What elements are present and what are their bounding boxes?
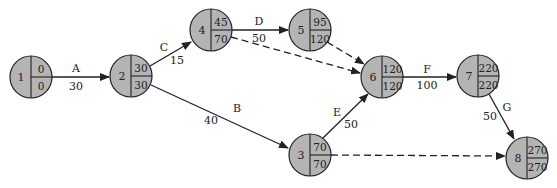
edge-d-duration: 50 [252, 32, 266, 45]
edge-c-duration: 15 [170, 54, 184, 67]
edge-c-name: C [160, 41, 168, 54]
node-id: 6 [370, 71, 377, 84]
node-3: 3 70 70 [289, 134, 331, 176]
edge-e [323, 94, 368, 138]
node-8: 8 270 270 [506, 137, 548, 179]
node-early-time: 270 [527, 144, 547, 156]
edge-b [151, 85, 288, 148]
node-id: 2 [119, 70, 126, 83]
node-5: 5 95 120 [289, 9, 331, 51]
node-late-time: 70 [214, 33, 227, 45]
node-id: 7 [466, 70, 473, 83]
edge-g-name: G [503, 101, 512, 114]
node-4: 4 45 70 [190, 9, 232, 51]
node-early-time: 45 [214, 16, 227, 28]
node-1: 1 0 0 [10, 56, 52, 98]
node-late-time: 0 [38, 80, 45, 92]
edge-b-name: B [233, 102, 241, 115]
edge-a-duration: 30 [69, 80, 83, 93]
network-diagram: A 30 B 40 C 15 D 50 E 50 F 100 G 50 1 0 … [0, 0, 557, 188]
edge-a-name: A [71, 62, 81, 75]
node-late-time: 30 [134, 79, 147, 91]
node-early-time: 70 [313, 141, 326, 153]
edge-b-duration: 40 [204, 114, 218, 127]
node-late-time: 120 [382, 80, 402, 92]
node-2: 2 30 30 [110, 55, 152, 97]
dummy-edge-3-8 [331, 155, 505, 156]
edge-e-duration: 50 [344, 118, 358, 131]
edge-f-name: F [423, 63, 431, 76]
node-early-time: 220 [478, 62, 498, 74]
node-early-time: 120 [382, 63, 402, 75]
node-late-time: 220 [478, 79, 498, 91]
node-id: 1 [18, 71, 25, 84]
node-early-time: 0 [38, 63, 45, 75]
node-id: 8 [515, 152, 522, 165]
node-early-time: 95 [313, 16, 326, 28]
node-late-time: 120 [310, 33, 330, 45]
node-late-time: 70 [313, 158, 326, 170]
node-7: 7 220 220 [457, 55, 499, 97]
edge-g-duration: 50 [483, 110, 497, 123]
dummy-edge-5-6 [327, 42, 364, 64]
node-id: 5 [298, 24, 305, 37]
node-early-time: 30 [134, 62, 147, 74]
edge-e-name: E [333, 106, 341, 119]
node-late-time: 270 [527, 161, 547, 173]
node-6: 6 120 120 [361, 56, 403, 98]
edge-d-name: D [255, 15, 264, 28]
node-id: 4 [199, 24, 206, 37]
node-id: 3 [298, 149, 305, 162]
edge-f-duration: 100 [417, 79, 438, 92]
